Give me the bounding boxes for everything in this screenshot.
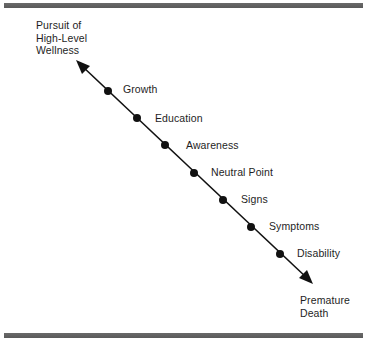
point-symptoms-dot	[247, 223, 255, 231]
point-label-growth: Growth	[123, 83, 157, 96]
point-signs-dot	[219, 196, 227, 204]
point-label-awareness: Awareness	[186, 139, 239, 152]
point-neutral-point-dot	[190, 169, 198, 177]
bottom-endpoint-label: Premature Death	[300, 294, 350, 319]
bottom-frame-bar	[4, 333, 363, 338]
point-label-education: Education	[155, 112, 203, 125]
point-awareness-dot	[161, 141, 169, 149]
top-endpoint-label: Pursuit of High-Level Wellness	[36, 19, 87, 57]
point-label-neutral-point: Neutral Point	[211, 166, 273, 179]
point-disability-dot	[276, 250, 284, 258]
point-label-disability: Disability	[297, 247, 340, 260]
point-label-signs: Signs	[241, 193, 268, 206]
point-growth-dot	[104, 87, 112, 95]
point-education-dot	[133, 114, 141, 122]
point-label-symptoms: Symptoms	[269, 220, 319, 233]
